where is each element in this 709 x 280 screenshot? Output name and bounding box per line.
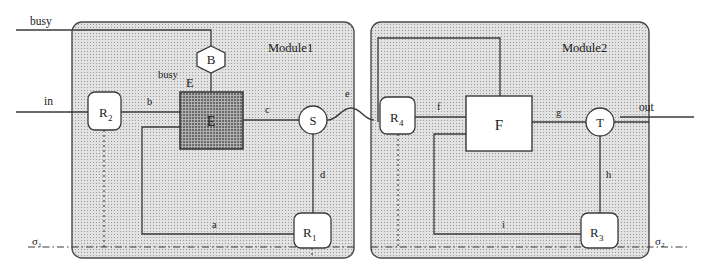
module1-label: Module1 (268, 41, 313, 55)
module2-label: Module2 (562, 41, 607, 55)
i-label: i (502, 219, 505, 230)
f-label: f (437, 101, 441, 112)
R3-subscript: 3 (599, 233, 604, 243)
R3-label: R (590, 225, 599, 240)
node-S[interactable]: S (299, 106, 327, 134)
module1-sigma-label: σ₁ (32, 235, 42, 247)
R1-subscript: 1 (312, 233, 317, 243)
busy-label: busy (30, 15, 52, 28)
diagram-canvas: Module1 σ₁ Module2 σ₂ busy in out busy E… (0, 0, 709, 280)
R4-subscript: 4 (399, 118, 404, 128)
R1-label: R (303, 225, 312, 240)
out-label: out (639, 101, 655, 113)
busy-port[interactable]: busy (16, 15, 72, 30)
node-T[interactable]: T (586, 108, 614, 136)
b-label: b (147, 96, 152, 107)
busy-inner-label: busy (158, 69, 179, 80)
T-label: T (596, 116, 604, 130)
e-label: e (345, 88, 350, 99)
in-label: in (44, 95, 53, 107)
node-E[interactable]: E (180, 92, 243, 149)
a-label: a (212, 219, 217, 230)
E-label: E (207, 114, 216, 129)
module2-sigma-label: σ₂ (655, 235, 665, 247)
d-label: d (320, 169, 326, 180)
B-label: B (207, 52, 216, 67)
node-F[interactable]: F (466, 96, 532, 151)
g-label: g (556, 107, 562, 118)
F-label: F (495, 117, 503, 133)
c-label: c (265, 104, 270, 115)
R4-label: R (390, 110, 399, 125)
node-R3[interactable]: R 3 (581, 213, 618, 248)
R2-subscript: 2 (108, 113, 113, 123)
h-label: h (606, 169, 612, 180)
R2-label: R (99, 105, 108, 120)
E-top-label: E (186, 76, 194, 90)
diagram-svg: Module1 σ₁ Module2 σ₂ busy in out busy E… (0, 0, 709, 280)
S-label: S (310, 114, 317, 128)
